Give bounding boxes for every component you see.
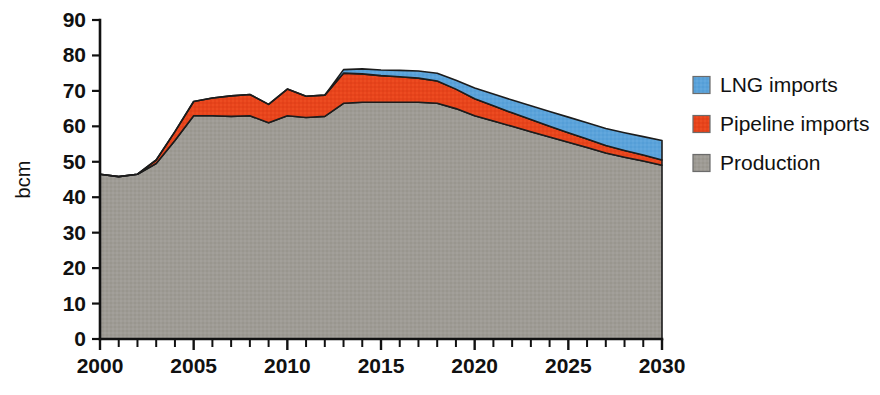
chart-legend: LNG importsPipeline importsProduction (693, 73, 869, 174)
y-axis-tick-labels: 0102030405060708090 (63, 8, 86, 350)
y-tick-label: 30 (63, 221, 86, 244)
legend-label-production: Production (720, 151, 820, 174)
stacked-area-chart: 2000200520102015202020252030 01020304050… (0, 0, 880, 395)
legend-label-lng-imports: LNG imports (720, 73, 838, 96)
y-tick-label: 90 (63, 8, 86, 31)
x-tick-label: 2030 (639, 354, 686, 377)
y-tick-label: 0 (74, 327, 86, 350)
y-tick-label: 60 (63, 114, 86, 137)
y-tick-label: 10 (63, 292, 86, 315)
y-tick-label: 80 (63, 43, 86, 66)
legend-swatch-pipeline-imports (693, 116, 710, 133)
legend-label-pipeline-imports: Pipeline imports (720, 112, 869, 135)
x-tick-label: 2010 (264, 354, 311, 377)
y-tick-label: 50 (63, 150, 86, 173)
y-axis-title-text: bcm (12, 161, 34, 199)
legend-swatch-production (693, 155, 710, 172)
chart-canvas: 2000200520102015202020252030 01020304050… (0, 0, 880, 395)
x-tick-label: 2015 (358, 354, 405, 377)
y-axis-title: bcm (12, 161, 34, 199)
x-axis-tick-labels: 2000200520102015202020252030 (77, 354, 686, 377)
y-tick-label: 70 (63, 79, 86, 102)
legend-swatch-lng-imports (693, 77, 710, 94)
y-tick-label: 20 (63, 256, 86, 279)
plot-areas (100, 69, 662, 339)
x-tick-label: 2025 (545, 354, 592, 377)
y-tick-label: 40 (63, 185, 86, 208)
x-tick-label: 2005 (170, 354, 217, 377)
x-tick-label: 2000 (77, 354, 124, 377)
x-tick-label: 2020 (451, 354, 498, 377)
